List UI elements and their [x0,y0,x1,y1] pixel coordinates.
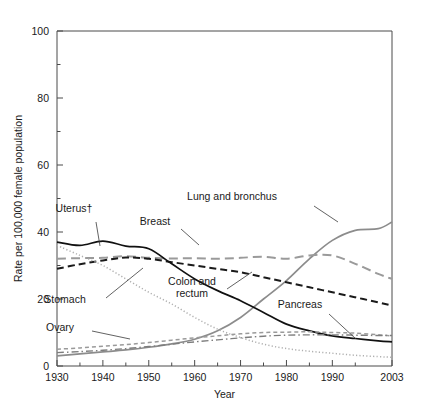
annotation-leader [181,229,199,245]
x-tick-label: 1970 [229,371,253,383]
series-annotation-ovary: Ovary [46,321,75,333]
y-tick-label: 80 [37,92,49,104]
series-annotation-stomach: Stomach [44,293,86,305]
chart-canvas: 0204060801001930194019501960197019801990… [0,0,421,412]
y-tick-label: 60 [37,159,49,171]
x-tick-label: 1980 [275,371,299,383]
annotation-leader [314,206,338,222]
series-line-colon-and-rectum [57,257,392,305]
series-line-stomach [57,245,392,357]
x-axis-title: Year [214,388,236,400]
series-annotation-colon-and-rectum: rectum [176,287,208,299]
y-axis-title: Rate per 100,000 female population [12,115,24,282]
series-annotation-pancreas: Pancreas [278,298,322,310]
x-tick-label: 1960 [183,371,207,383]
x-tick-label: 2003 [380,371,404,383]
y-tick-label: 0 [43,360,49,372]
cancer-mortality-line-chart: 0204060801001930194019501960197019801990… [0,0,421,412]
x-tick-label: 1990 [321,371,345,383]
annotation-leader [106,268,143,298]
annotation-leader [92,331,130,339]
annotation-leader [227,272,252,289]
x-tick-label: 1950 [137,371,161,383]
series-line-breast [57,255,392,279]
series-annotation-colon-and-rectum: Colon and [168,275,216,287]
x-tick-label: 1930 [45,371,69,383]
y-tick-label: 40 [37,226,49,238]
series-annotation-uterus-: Uterus† [56,202,93,214]
x-tick-label: 1940 [91,371,115,383]
series-layer [57,222,392,357]
annotation-layer: Uterus†BreastLung and bronchusColon andr… [44,190,356,339]
y-tick-label: 100 [31,25,49,37]
series-annotation-lung-and-bronchus: Lung and bronchus [187,190,277,202]
series-annotation-breast: Breast [140,215,170,227]
